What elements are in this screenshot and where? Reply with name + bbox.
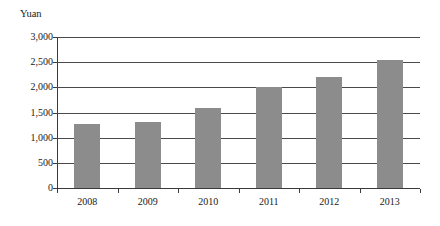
x-axis-tick-mark — [420, 189, 421, 193]
bar-chart: Yuan 05001,0001,5002,0002,5003,000 20082… — [0, 0, 440, 226]
bar-2013 — [377, 60, 403, 188]
gridline — [57, 163, 420, 164]
gridline — [57, 113, 420, 114]
x-axis-tick-mark — [299, 189, 300, 193]
y-axis-tick-label: 0 — [1, 183, 53, 193]
y-axis-tick-label: 2,500 — [1, 57, 53, 67]
x-axis-tick-label: 2011 — [239, 196, 299, 208]
x-axis-tick-mark — [118, 189, 119, 193]
bar-2008 — [74, 124, 100, 188]
x-axis-tick-mark — [360, 189, 361, 193]
y-axis-tick-label: 1,500 — [1, 108, 53, 118]
y-axis-tick-label: 3,000 — [1, 32, 53, 42]
x-axis-tick-label: 2008 — [57, 196, 117, 208]
x-axis-tick-mark — [57, 189, 58, 193]
x-axis-tick-mark — [239, 189, 240, 193]
y-axis-tick-group: 05001,0001,5002,0002,5003,000 — [0, 0, 53, 226]
x-axis-tick-label: 2009 — [118, 196, 178, 208]
gridline — [57, 138, 420, 139]
y-axis-tick-label: 2,000 — [1, 82, 53, 92]
y-axis-tick-label: 500 — [1, 158, 53, 168]
bar-2009 — [135, 122, 161, 188]
x-axis-tick-label: 2013 — [360, 196, 420, 208]
bar-2011 — [256, 87, 282, 188]
gridline — [57, 37, 420, 38]
gridline — [57, 87, 420, 88]
bar-2010 — [195, 108, 221, 188]
x-axis-tick-label: 2012 — [299, 196, 359, 208]
x-axis-tick-label: 2010 — [178, 196, 238, 208]
plot-area — [57, 37, 420, 188]
bar-2012 — [316, 77, 342, 188]
x-axis-tick-mark — [178, 189, 179, 193]
y-axis-tick-label: 1,000 — [1, 133, 53, 143]
gridline — [57, 62, 420, 63]
